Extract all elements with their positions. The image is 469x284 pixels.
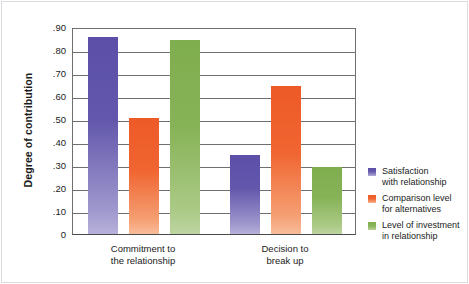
legend-label: Comparison levelfor alternatives bbox=[382, 193, 468, 215]
y-axis-tick-label: .20 bbox=[36, 184, 66, 194]
legend-item: Satisfactionwith relationship bbox=[368, 166, 468, 188]
y-axis-tick-label: .40 bbox=[36, 138, 66, 148]
x-axis-category-label-line: the relationship bbox=[73, 255, 213, 267]
legend-label-line: in relationship bbox=[382, 231, 468, 242]
y-axis-tick-label: .80 bbox=[36, 46, 66, 56]
bar bbox=[170, 40, 200, 234]
x-axis-category-label: Commitment tothe relationship bbox=[73, 243, 213, 267]
bar bbox=[271, 86, 301, 234]
bar bbox=[312, 167, 342, 234]
x-axis-category-label-line: Commitment to bbox=[73, 243, 213, 255]
y-axis-tick-label: .70 bbox=[36, 69, 66, 79]
legend-label-line: Satisfaction bbox=[382, 166, 468, 177]
y-axis-tick-label: .50 bbox=[36, 115, 66, 125]
y-axis-tick-label: .90 bbox=[36, 23, 66, 33]
plot-area bbox=[72, 28, 356, 235]
y-axis-tick-label: 0 bbox=[36, 230, 66, 240]
legend-item: Comparison levelfor alternatives bbox=[368, 193, 468, 215]
y-axis-tick-label: .60 bbox=[36, 92, 66, 102]
y-axis-title: Degree of contribution bbox=[22, 40, 34, 220]
chart-figure: Degree of contribution .90.80.70.60.50.4… bbox=[0, 0, 469, 284]
legend-swatch bbox=[368, 195, 376, 203]
legend-swatch bbox=[368, 168, 376, 176]
legend-label-line: for alternatives bbox=[382, 204, 468, 215]
legend-swatch bbox=[368, 222, 376, 230]
x-axis-category-label: Decision tobreak up bbox=[215, 243, 355, 267]
legend-item: Level of investmentin relationship bbox=[368, 220, 468, 242]
legend-label: Level of investmentin relationship bbox=[382, 220, 468, 242]
bar bbox=[230, 155, 260, 234]
chart-legend: Satisfactionwith relationshipComparison … bbox=[368, 166, 468, 247]
y-axis-tick-label: .10 bbox=[36, 207, 66, 217]
bar bbox=[88, 37, 118, 234]
legend-label-line: Comparison level bbox=[382, 193, 468, 204]
legend-label: Satisfactionwith relationship bbox=[382, 166, 468, 188]
legend-label-line: with relationship bbox=[382, 177, 468, 188]
bar bbox=[129, 118, 159, 234]
y-axis-tick-label: .30 bbox=[36, 161, 66, 171]
x-axis-category-label-line: break up bbox=[215, 255, 355, 267]
legend-label-line: Level of investment bbox=[382, 220, 468, 231]
x-axis-category-label-line: Decision to bbox=[215, 243, 355, 255]
